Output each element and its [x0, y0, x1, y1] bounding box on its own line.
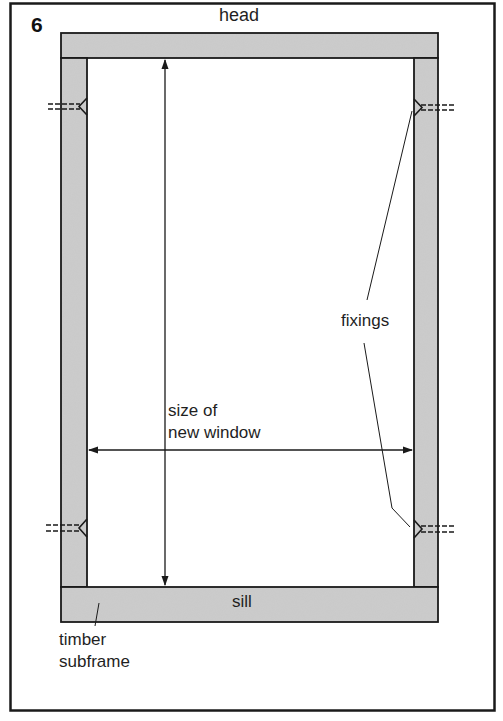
subframe-label-line2: subframe [59, 652, 130, 672]
figure-number: 6 [31, 13, 43, 37]
head-label: head [219, 5, 259, 25]
fixings-label: fixings [341, 311, 389, 331]
size-label-line2: new window [168, 423, 261, 443]
sill-label: sill [232, 592, 252, 612]
window-subframe-diagram: 6 head sill fixings size of new window t… [0, 0, 503, 721]
size-label-line1: size of [168, 401, 217, 421]
subframe-label-line1: timber [59, 630, 106, 650]
diagram-graphics [0, 0, 503, 721]
